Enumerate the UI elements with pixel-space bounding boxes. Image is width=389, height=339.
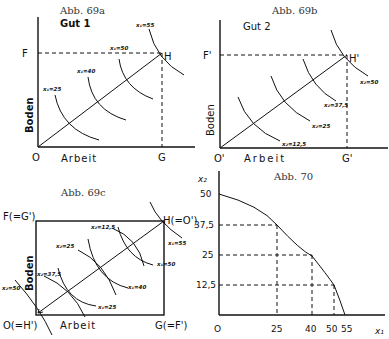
fig69a-title: Abb. 69a (59, 5, 105, 16)
fig70-y-tick: 37,5 (194, 220, 214, 230)
fig69a-isoquant-50 (119, 59, 153, 99)
fig69a-isoquant-label: x₁=50 (109, 45, 128, 51)
fig69c-corner-top-right: H(=O') (163, 215, 197, 226)
fig69c-label-x2: x₂=50 (1, 285, 20, 291)
fig69a-x-axis-label: Arbeit (61, 153, 97, 164)
fig69c-contract-curve (38, 221, 164, 313)
fig69a-isoquant-label: x₁=40 (76, 68, 95, 74)
fig70-x-tick: 40 (305, 324, 317, 334)
fig69b-isoquant-label: x₂=12,5 (281, 141, 306, 147)
fig69c-corner-top-left: F(=G') (3, 211, 36, 222)
fig69c-isoquant-x1-25 (58, 268, 96, 306)
fig70-y-tick: 12,5 (196, 280, 216, 290)
fig70-origin-label: O (214, 324, 221, 334)
fig69b-isoquant-label: x₂=37,5 (323, 102, 348, 108)
fig69b-x-axis-label: Arbeit (244, 153, 286, 164)
fig69c-isoquant-x2-25 (78, 250, 116, 295)
fig69a-y-axis-label: Boden (24, 97, 35, 133)
fig70-x-axis-label: x₁ (374, 326, 384, 336)
fig70-x-tick: 55 (341, 324, 352, 334)
figure-69a: Abb. 69a Gut 1 x₁=25 x₁=40 x₁=50 x₁=55 F… (22, 5, 195, 164)
fig69c-isoquant-x1-40 (88, 239, 128, 288)
figure-70: Abb. 70 x₂ x₁ O 50 37,5 25 12,5 25 40 50… (194, 171, 385, 336)
fig69c-label-x2: x₂=37,5 (36, 271, 61, 277)
fig69c-x-axis-label: Arbeit (60, 320, 96, 331)
fig70-y-axis-label: x₂ (197, 174, 207, 184)
fig69b-label-f-prime: F' (203, 50, 212, 61)
fig69c-y-axis-label: Boden (24, 255, 35, 291)
fig69c-corner-bottom-left: O(=H') (3, 320, 37, 331)
fig69a-isoquant-label: x₁=55 (135, 22, 154, 28)
fig69c-label-x1: x₁=25 (97, 304, 116, 310)
fig69b-subtitle: Gut 2 (243, 21, 271, 32)
fig69a-isoquant-label: x₁=25 (42, 86, 61, 92)
diagram-canvas: Abb. 69a Gut 1 x₁=25 x₁=40 x₁=50 x₁=55 F… (0, 0, 389, 339)
fig69c-label-x2: x₂=25 (55, 243, 74, 249)
fig69a-label-f: F (22, 48, 28, 59)
fig69c-title: Abb. 69c (60, 187, 106, 198)
fig70-x-tick: 50 (326, 324, 338, 334)
fig69c-isoquant-x2-37-5 (44, 276, 85, 317)
fig70-title: Abb. 70 (273, 171, 313, 182)
fig69b-label-origin: O' (214, 153, 225, 164)
fig69c-label-x1: x₁=50 (156, 261, 175, 267)
fig69b-isoquant-37-5 (303, 59, 336, 101)
fig69a-subtitle: Gut 1 (60, 18, 91, 29)
fig70-y-tick: 50 (200, 189, 212, 199)
fig69b-isoquant-25 (271, 76, 310, 121)
fig69a-label-origin: O (32, 152, 40, 163)
fig69a-isoquant-40 (88, 77, 126, 120)
figure-69b: Abb. 69b Gut 2 x₂=12,5 x₂=25 x₂=37,5 x₂=… (203, 5, 388, 164)
fig69c-label-x2: x₂=12,5 (90, 224, 115, 230)
fig69b-label-h-prime: H' (349, 53, 359, 64)
figure-69c: Abb. 69c x₁=25 x₁=40 x₁=50 x₁=55 x₂=50 x… (1, 187, 197, 335)
fig69a-label-g: G (158, 152, 166, 163)
fig70-y-tick: 25 (202, 250, 213, 260)
fig69b-title: Abb. 69b (271, 5, 318, 16)
fig69b-y-axis-label: Boden (205, 104, 216, 136)
fig69b-label-g-prime: G' (342, 153, 353, 164)
fig69c-label-x1: x₁=40 (127, 284, 146, 290)
fig70-x-tick: 25 (271, 324, 282, 334)
fig69b-isoquant-label: x₂=25 (311, 123, 330, 129)
fig69a-label-h: H (164, 51, 172, 62)
fig69c-label-x1: x₁=55 (167, 240, 186, 246)
fig69b-isoquant-label: x₂=50 (359, 79, 378, 85)
fig69c-corner-bottom-right: G(=F') (155, 320, 188, 331)
